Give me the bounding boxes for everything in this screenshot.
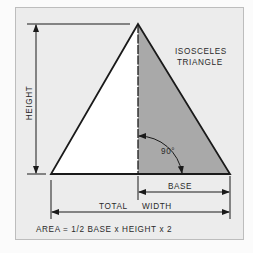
height-label: HEIGHT [25, 86, 34, 121]
total-width-label-part1: TOTAL [99, 202, 128, 211]
angle-label: 90° [161, 147, 175, 156]
base-label: BASE [168, 182, 192, 191]
title-line-2: TRIANGLE [177, 58, 223, 67]
title-line-1: ISOSCELES [175, 47, 227, 56]
total-width-label-part2: WIDTH [142, 202, 172, 211]
area-formula: AREA = 1/2 BASE x HEIGHT x 2 [36, 225, 172, 234]
isosceles-triangle-diagram: HEIGHT ISOSCELES TRIANGLE 90° BASE TOTAL… [0, 0, 253, 253]
